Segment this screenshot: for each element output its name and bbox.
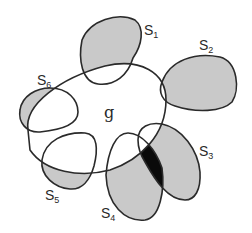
label-s4: S4 <box>101 205 115 223</box>
label-s2: S2 <box>199 37 213 55</box>
label-s1: S1 <box>144 22 158 40</box>
label-s3: S3 <box>199 143 213 161</box>
set-diagram: g S1 S2 S3 S4 S5 S6 <box>0 0 252 233</box>
label-g: g <box>104 103 114 122</box>
label-s6: S6 <box>37 72 51 90</box>
s2-shaded-region <box>161 56 237 111</box>
diagram-svg: g S1 S2 S3 S4 S5 S6 <box>0 0 252 233</box>
label-s5: S5 <box>45 187 59 205</box>
s1-shaded-region <box>81 17 142 84</box>
